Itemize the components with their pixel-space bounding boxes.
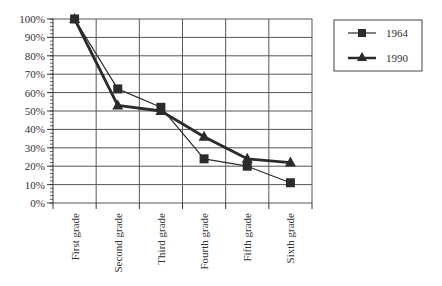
line-chart: 0%10%20%30%40%50%60%70%80%90%100% First … xyxy=(0,0,442,286)
y-tick-label: 30% xyxy=(25,142,45,154)
square-marker-icon xyxy=(286,178,295,187)
x-tick-label: Sixth grade xyxy=(284,213,296,264)
legend: 1964 1990 xyxy=(334,20,422,71)
square-marker-icon xyxy=(358,29,366,37)
triangle-marker-icon xyxy=(112,99,123,109)
y-tick-label: 100% xyxy=(19,13,45,25)
y-tick-label: 40% xyxy=(25,123,45,135)
legend-label-1990: 1990 xyxy=(386,52,409,64)
y-tick-label: 80% xyxy=(25,50,45,62)
y-tick-label: 70% xyxy=(25,68,45,80)
legend-box xyxy=(334,20,422,71)
y-tick-label: 20% xyxy=(25,160,45,172)
y-tick-label: 50% xyxy=(25,105,45,117)
y-tick-label: 60% xyxy=(25,87,45,99)
square-marker-icon xyxy=(113,84,122,93)
y-tick-label: 10% xyxy=(25,179,45,191)
square-marker-icon xyxy=(200,154,209,163)
x-tick-label: Third grade xyxy=(155,213,167,265)
x-axis: First gradeSecond gradeThird gradeFourth… xyxy=(53,203,312,273)
x-tick-label: Second grade xyxy=(112,213,124,273)
x-tick-label: Fourth grade xyxy=(198,213,210,270)
y-tick-label: 90% xyxy=(25,31,45,43)
x-tick-label: First grade xyxy=(69,213,81,260)
y-tick-label: 0% xyxy=(30,197,45,209)
legend-label-1964: 1964 xyxy=(386,27,409,39)
x-tick-label: Fifth grade xyxy=(241,213,253,262)
y-axis: 0%10%20%30%40%50%60%70%80%90%100% xyxy=(19,13,53,209)
square-marker-icon xyxy=(243,162,252,171)
